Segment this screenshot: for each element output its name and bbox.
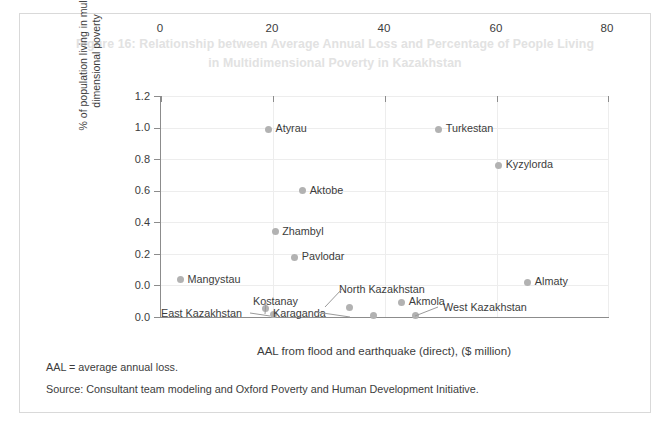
data-point-west-kazakhstan[interactable]: [412, 312, 419, 319]
tick-x-40: [385, 96, 386, 102]
data-point-zhambyl[interactable]: [272, 228, 279, 235]
tick-x-0: [161, 96, 162, 102]
data-label-atyrau: Atyrau: [276, 123, 307, 134]
scatter-plot-area: AtyrauTurkestanKyzylordaAktobeZhambylPav…: [160, 96, 609, 318]
data-label-akmola: Akmola: [409, 296, 445, 307]
tick-label-y-0.6: 0.4: [110, 217, 150, 228]
figure-title: Figure 16: Relationship between Average …: [75, 35, 595, 73]
data-label-kyzylorda: Kyzylorda: [506, 159, 553, 170]
data-label-almaty: Almaty: [535, 276, 568, 287]
tick-y-0.8: [154, 191, 161, 192]
tick-y-1.0: [154, 159, 161, 160]
data-label-north-kazakhstan: North Kazakhstan: [339, 284, 425, 295]
y-axis-title: % of population living in multi-dimensio…: [77, 0, 103, 136]
tick-y-0.2: [154, 285, 161, 286]
data-point-pavlodar[interactable]: [291, 254, 298, 261]
figure-frame: Figure 16: Relationship between Average …: [19, 13, 651, 413]
tick-label-y-1.0: 0.8: [110, 154, 150, 165]
tick-y-0.6: [154, 222, 161, 223]
data-point-aktobe[interactable]: [299, 187, 306, 194]
tick-label-y-0.2: 0.0: [110, 280, 150, 291]
tick-y-1.4: [154, 96, 161, 97]
data-point-karaganda[interactable]: [370, 312, 377, 319]
tick-label-y-0.4: 0.2: [110, 249, 150, 260]
tick-label-x-60: 60: [476, 22, 516, 34]
data-point-atyrau[interactable]: [265, 126, 272, 133]
data-point-akmola[interactable]: [398, 299, 405, 306]
data-label-aktobe: Aktobe: [310, 185, 344, 196]
data-label-west-kazakhstan: West Kazakhstan: [443, 302, 527, 313]
data-label-turkestan: Turkestan: [446, 123, 494, 134]
tick-y-0.4: [154, 254, 161, 255]
tick-x-60: [497, 96, 498, 102]
tick-y-1.2: [154, 128, 161, 129]
tick-y-0.0: [154, 317, 161, 318]
tick-label-x-40: 40: [364, 22, 404, 34]
note-source: Source: Consultant team modeling and Oxf…: [46, 383, 479, 395]
tick-label-x-80: 80: [587, 22, 627, 34]
data-label-zhambyl: Zhambyl: [282, 226, 323, 237]
data-label-east-kazakhstan: East Kazakhstan: [161, 308, 242, 319]
data-point-mangystau[interactable]: [177, 276, 184, 283]
data-label-mangystau: Mangystau: [188, 274, 241, 285]
tick-label-y-1.2: 1.0: [110, 122, 150, 133]
gridline-x-60: [497, 96, 498, 317]
data-label-kostanay: Kostanay: [253, 296, 298, 307]
note-abbreviation: AAL = average annual loss.: [46, 361, 178, 373]
data-label-karaganda: Karaganda: [273, 308, 326, 319]
tick-label-x-0: 0: [140, 22, 180, 34]
gridline-x-20: [273, 96, 274, 317]
tick-label-y-0.8: 0.6: [110, 185, 150, 196]
gridline-x-80: [608, 96, 609, 317]
data-point-kyzylorda[interactable]: [495, 162, 502, 169]
tick-label-y-1.4: 1.2: [110, 91, 150, 102]
tick-label-x-20: 20: [252, 22, 292, 34]
x-axis-title: AAL from flood and earthquake (direct), …: [160, 345, 608, 357]
data-point-turkestan[interactable]: [435, 126, 442, 133]
data-label-pavlodar: Pavlodar: [302, 251, 345, 262]
tick-x-20: [273, 96, 274, 102]
data-point-north-kazakhstan[interactable]: [346, 304, 353, 311]
tick-x-80: [608, 96, 609, 102]
tick-label-y-0.0: 0.0: [110, 312, 150, 323]
